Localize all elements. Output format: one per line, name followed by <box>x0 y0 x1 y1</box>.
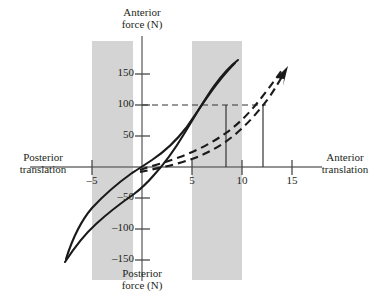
y-tick-label-50: 50 <box>108 129 134 141</box>
shaded-band-anterior <box>192 41 242 280</box>
y-tick-label-150: 150 <box>108 67 134 79</box>
axis-title-anterior-translation-line2: translation <box>314 164 376 176</box>
x-tick-label-5: 5 <box>184 175 200 187</box>
axis-title-anterior-translation: Anterior translation <box>314 152 376 176</box>
axis-title-posterior-translation: Posterior translation <box>10 152 76 176</box>
axis-title-anterior-force-line2: force (N) <box>110 19 174 31</box>
x-tick-label-minus5: –5 <box>80 175 104 187</box>
axis-title-posterior-force: Posterior force (N) <box>110 268 174 292</box>
y-tick-label-100: 100 <box>108 98 134 110</box>
y-tick-label-minus150: –150 <box>99 253 134 265</box>
x-tick-label-10: 10 <box>232 175 252 187</box>
axis-title-anterior-force: Anterior force (N) <box>110 7 174 31</box>
y-tick-label-minus100: –100 <box>99 222 134 234</box>
x-tick-label-15: 15 <box>282 175 302 187</box>
y-tick-label-minus50: –50 <box>103 191 134 203</box>
axis-title-posterior-translation-line2: translation <box>10 164 76 176</box>
axis-title-posterior-force-line2: force (N) <box>110 280 174 292</box>
